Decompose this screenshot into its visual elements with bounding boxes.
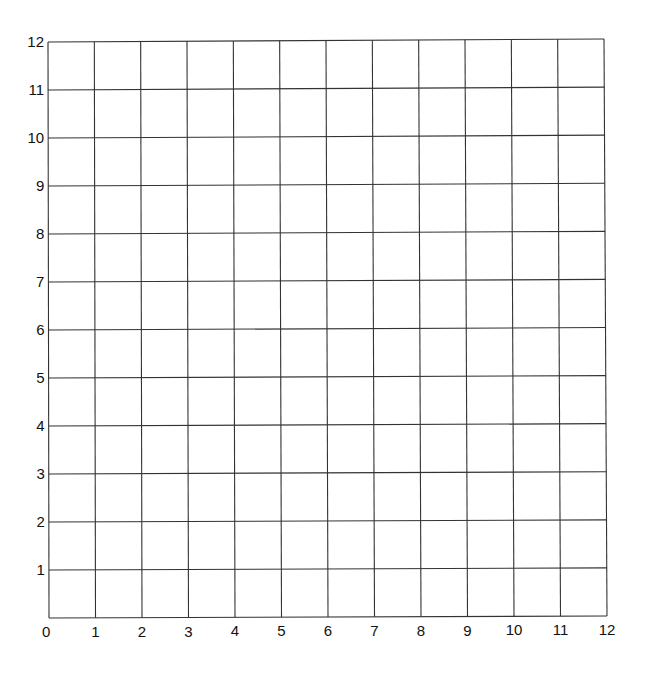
y-tick-label: 9 xyxy=(36,177,44,194)
x-tick-label: 7 xyxy=(370,622,378,639)
x-tick-label: 1 xyxy=(91,623,99,640)
y-tick-label: 10 xyxy=(27,129,44,146)
x-tick-label: 6 xyxy=(324,622,332,639)
x-tick-label: 11 xyxy=(553,621,569,638)
x-tick-label: 4 xyxy=(231,622,239,639)
x-tick-label: 2 xyxy=(138,623,146,640)
coordinate-grid-chart: 0123456789101112 123456789101112 xyxy=(0,0,650,675)
y-tick-label: 5 xyxy=(36,369,44,386)
y-tick-label: 12 xyxy=(27,33,44,50)
y-tick-label: 2 xyxy=(36,513,44,530)
grid-lines xyxy=(48,39,607,618)
y-axis-tick-labels: 123456789101112 xyxy=(27,33,45,578)
y-tick-label: 7 xyxy=(36,273,44,290)
x-tick-label: 9 xyxy=(463,622,471,639)
y-tick-label: 3 xyxy=(36,465,44,482)
y-tick-label: 4 xyxy=(36,417,44,434)
y-tick-label: 6 xyxy=(36,321,44,338)
x-tick-label: 0 xyxy=(42,623,50,640)
x-tick-label: 12 xyxy=(599,621,616,638)
x-tick-label: 5 xyxy=(277,622,285,639)
y-tick-label: 1 xyxy=(37,561,45,578)
y-tick-label: 11 xyxy=(29,81,45,98)
x-tick-label: 10 xyxy=(506,621,523,638)
x-axis-tick-labels: 0123456789101112 xyxy=(42,621,615,640)
y-tick-label: 8 xyxy=(36,225,44,242)
x-tick-label: 3 xyxy=(184,623,192,640)
x-tick-label: 8 xyxy=(417,622,425,639)
